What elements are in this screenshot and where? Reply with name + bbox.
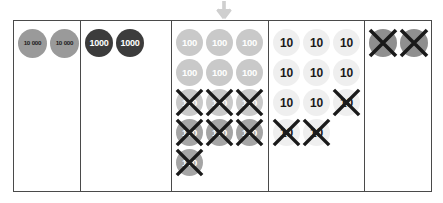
chip-ones-crossed[interactable]: [400, 29, 428, 57]
chip-ten-thousands[interactable]: 10 000: [18, 29, 47, 58]
chip-label: 10: [310, 37, 323, 49]
chip-tens-crossed[interactable]: 10: [303, 119, 330, 146]
chip-label: 10: [310, 127, 323, 139]
chip-tens[interactable]: 10: [273, 89, 300, 116]
chip-label: 10: [340, 97, 353, 109]
chip-hundreds-crossed[interactable]: 100: [176, 89, 203, 116]
chip-row: 100100100: [176, 59, 264, 86]
chip-label: 100: [212, 68, 227, 78]
chip-label: 10: [280, 67, 293, 79]
place-value-column-ones: [365, 21, 431, 191]
chip-hundreds[interactable]: 100: [236, 29, 263, 56]
chip-label: 100: [182, 98, 197, 108]
chip-tens-crossed[interactable]: 10: [273, 119, 300, 146]
chip-hundreds[interactable]: 100: [206, 29, 233, 56]
chip-label: 100: [182, 38, 197, 48]
chip-rows: 100100100100100100100100100100100100100: [176, 26, 264, 176]
place-value-column-tens: 1010101010101010101010: [269, 21, 365, 191]
chip-row: 1010: [273, 119, 360, 146]
chip-label: 1000: [120, 39, 139, 48]
chip-label: 10: [340, 67, 353, 79]
chip-rows: 1010101010101010101010: [273, 26, 360, 146]
chip-tens[interactable]: 10: [333, 59, 360, 86]
chip-tens-crossed[interactable]: 10: [333, 89, 360, 116]
chip-label: 100: [212, 98, 227, 108]
chip-label: 10: [310, 97, 323, 109]
chip-row: 100100100: [176, 119, 264, 146]
chip-row: 100100100: [176, 89, 264, 116]
chip-tens[interactable]: 10: [273, 59, 300, 86]
chip-rows: [369, 26, 427, 57]
chip-label: 10 000: [24, 40, 42, 46]
place-value-diagram: 10 00010 0001000100010010010010010010010…: [0, 0, 443, 203]
chip-row: 100100100: [176, 29, 264, 56]
chip-row: [369, 29, 427, 57]
chip-row: 100: [176, 149, 264, 176]
chip-hundreds-crossed[interactable]: 100: [236, 89, 263, 116]
chip-row: 101010: [273, 89, 360, 116]
chip-rows: 10001000: [85, 26, 167, 57]
chip-tens[interactable]: 10: [273, 29, 300, 56]
arrow-down-icon: [214, 1, 234, 20]
chip-label: 100: [242, 38, 257, 48]
chip-tens[interactable]: 10: [303, 89, 330, 116]
chip-row: 101010: [273, 59, 360, 86]
chip-label: 10: [340, 37, 353, 49]
cross-out-icon: [397, 26, 431, 60]
chip-hundreds[interactable]: 100: [176, 59, 203, 86]
chip-tens[interactable]: 10: [303, 59, 330, 86]
chip-hundreds-crossed[interactable]: 100: [236, 119, 263, 146]
chip-label: 100: [242, 128, 257, 138]
chip-ones-crossed[interactable]: [369, 29, 397, 57]
chip-row: 101010: [273, 29, 360, 56]
chip-tens[interactable]: 10: [303, 29, 330, 56]
chip-hundreds[interactable]: 100: [236, 59, 263, 86]
chip-hundreds-crossed[interactable]: 100: [176, 119, 203, 146]
chip-label: 100: [212, 38, 227, 48]
chip-label: 10: [280, 97, 293, 109]
place-value-column-hundreds: 100100100100100100100100100100100100100: [172, 21, 269, 191]
chip-tens[interactable]: 10: [333, 29, 360, 56]
place-value-column-thousands: 10001000: [81, 21, 172, 191]
chip-hundreds-crossed[interactable]: 100: [206, 119, 233, 146]
chip-thousands[interactable]: 1000: [116, 29, 144, 57]
chip-label: 100: [182, 68, 197, 78]
chip-hundreds-crossed[interactable]: 100: [176, 149, 203, 176]
chip-rows: 10 00010 000: [18, 26, 76, 58]
chip-row: 10 00010 000: [18, 29, 76, 58]
chip-label: 100: [212, 128, 227, 138]
chip-ten-thousands[interactable]: 10 000: [50, 29, 79, 58]
chip-thousands[interactable]: 1000: [85, 29, 113, 57]
chip-label: 100: [242, 68, 257, 78]
chip-label: 10: [280, 127, 293, 139]
chip-row: 10001000: [85, 29, 167, 57]
chip-label: 100: [182, 128, 197, 138]
cross-out-icon: [366, 26, 400, 60]
chip-hundreds[interactable]: 100: [176, 29, 203, 56]
chip-label: 100: [242, 98, 257, 108]
chip-label: 100: [182, 158, 197, 168]
chip-label: 10 000: [56, 40, 74, 46]
place-value-column-ten-thousands: 10 00010 000: [14, 21, 81, 191]
chip-label: 10: [280, 37, 293, 49]
place-value-table: 10 00010 0001000100010010010010010010010…: [13, 20, 432, 192]
chip-label: 10: [310, 67, 323, 79]
chip-hundreds-crossed[interactable]: 100: [206, 89, 233, 116]
chip-hundreds[interactable]: 100: [206, 59, 233, 86]
chip-label: 1000: [89, 39, 108, 48]
